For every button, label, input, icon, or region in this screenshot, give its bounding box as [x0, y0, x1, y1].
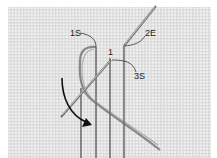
stitch-diagram [0, 0, 217, 158]
label-3s: 3S [134, 72, 145, 81]
needlework-photo: 1S 2E 1 3S [0, 0, 217, 158]
vertical-stitches [81, 46, 124, 158]
label-1s: 1S [70, 29, 81, 38]
label-1: 1 [108, 48, 113, 57]
leader-1s [80, 33, 96, 47]
label-2e: 2E [145, 29, 156, 38]
